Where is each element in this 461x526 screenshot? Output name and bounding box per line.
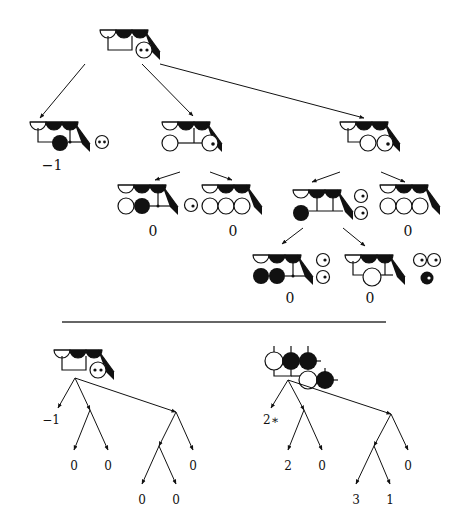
tree-edge-arrow (74, 410, 90, 450)
node-value-rr: 0 (404, 224, 413, 238)
tree-edge-arrow (288, 410, 304, 450)
bl-leaf-value-0: −1 (42, 414, 60, 426)
bl-leaf-value-3: 0 (189, 460, 197, 472)
br-leaf-value-5: 1 (386, 494, 394, 506)
left-child-position (30, 122, 109, 152)
tree-edge-arrow (159, 446, 176, 484)
tree-edge-arrow (40, 64, 85, 118)
tree-edge-arrow (381, 172, 405, 182)
ml-position (118, 185, 198, 215)
game-tree-figure (0, 0, 461, 526)
tree-edge-arrow (391, 414, 408, 450)
tree-edge-arrow (304, 410, 322, 450)
rl-position (293, 190, 368, 222)
tree-edge-arrow (58, 378, 75, 408)
br-leaf-value-4: 3 (352, 494, 360, 506)
tree-edge-arrow (142, 64, 193, 116)
tree-edge-arrow (90, 410, 108, 450)
tree-edge-arrow (176, 412, 193, 450)
br-leaf-value-3: 0 (404, 460, 412, 472)
bottom-left-tree-edges (58, 378, 193, 484)
tree-edge-arrow (312, 172, 340, 182)
rr-position (380, 185, 440, 215)
node-value-ml: 0 (149, 224, 158, 238)
rll-position (253, 254, 330, 286)
top-tree-edges (40, 64, 405, 246)
tree-edge-arrow (282, 228, 303, 244)
tree-edge-arrow (142, 446, 159, 484)
bottom-left-position (54, 350, 114, 380)
bl-leaf-value-4: 0 (138, 494, 146, 506)
mr-position (202, 185, 262, 215)
rlr-position (345, 254, 441, 287)
bl-leaf-value-1: 0 (70, 460, 78, 472)
br-leaf-value-1: 2 (284, 460, 292, 472)
tree-edge-arrow (374, 446, 390, 484)
tree-edge-arrow (75, 378, 176, 412)
right-child-position (340, 122, 400, 152)
middle-child-position (162, 122, 222, 152)
bottom-right-position (265, 346, 338, 389)
br-leaf-value-2: 0 (318, 460, 326, 472)
tree-edge-arrow (271, 380, 288, 408)
tree-edge-arrow (356, 446, 374, 484)
root-position (100, 30, 160, 60)
br-leaf-value-0: 2∗ (263, 414, 279, 426)
bl-leaf-value-5: 0 (172, 494, 180, 506)
node-value-rlr: 0 (366, 291, 375, 305)
tree-edge-arrow (159, 412, 176, 446)
bl-leaf-value-2: 0 (104, 460, 112, 472)
node-value-l: −1 (42, 158, 63, 172)
node-value-mr: 0 (229, 224, 238, 238)
tree-edge-arrow (155, 172, 180, 180)
tree-edge-arrow (343, 228, 365, 246)
tree-edge-arrow (210, 172, 232, 180)
tree-edge-arrow (374, 414, 391, 446)
node-value-rll: 0 (286, 291, 295, 305)
tree-edge-arrow (160, 64, 364, 118)
